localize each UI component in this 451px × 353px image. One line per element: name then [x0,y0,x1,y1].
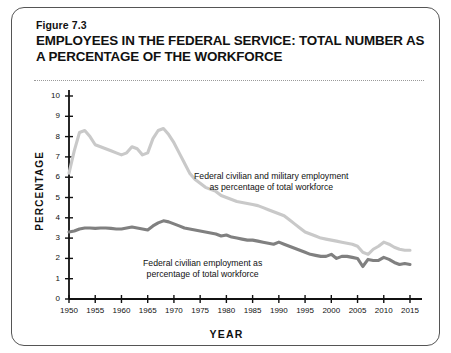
y-tick-label: 2 [38,253,60,262]
annotation-total-line1: Federal civilian and military employment [194,171,349,182]
y-tick-label: 3 [38,233,60,242]
y-tick-label: 10 [38,91,60,100]
y-tick-label: 1 [38,274,60,283]
figure-card: Figure 7.3 EMPLOYEES IN THE FEDERAL SERV… [11,7,440,346]
x-tick-label: 2015 [395,306,425,315]
y-tick-label: 4 [38,213,60,222]
y-tick-label: 0 [38,294,60,303]
y-tick-label: 6 [38,172,60,181]
y-tick-label: 8 [38,132,60,141]
annotation-civilian: Federal civilian employment as percentag… [143,258,262,280]
y-tick-label: 7 [38,152,60,161]
annotation-total-workforce: Federal civilian and military employment… [194,171,349,193]
annotation-civilian-line1: Federal civilian employment as [143,258,262,269]
y-tick-label: 5 [38,193,60,202]
annotation-total-line2: as percentage of total workforce [194,182,349,193]
y-tick-label: 9 [38,111,60,120]
annotation-civilian-line2: percentage of total workforce [143,269,262,280]
